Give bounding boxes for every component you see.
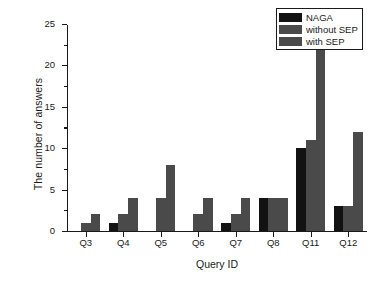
- bar-q6-series-2: [203, 198, 213, 231]
- legend-entry-0: NAGA: [279, 11, 358, 23]
- y-axis-tick-label: 10: [44, 141, 55, 154]
- bar-chart-figure: The number of answers Query ID 051015202…: [0, 0, 379, 284]
- y-axis-tick: 25: [62, 24, 67, 25]
- y-axis-tick: 10: [62, 148, 67, 149]
- y-axis-line: [67, 25, 68, 232]
- plot-area: 0510152025 Q3Q4Q5Q6Q7Q8Q11Q12: [67, 25, 367, 232]
- x-axis-tick-label-q7: Q7: [216, 237, 256, 248]
- y-axis-minor-tick: [64, 210, 67, 211]
- bar-q7-series-2: [241, 198, 251, 231]
- legend-label-0: NAGA: [306, 12, 333, 23]
- legend-swatch-1: [279, 25, 302, 34]
- y-axis-tick: 0: [62, 231, 67, 232]
- bar-q3-series-1: [81, 223, 91, 231]
- legend-swatch-2: [279, 37, 302, 46]
- y-axis-tick-label: 0: [50, 224, 55, 237]
- y-axis-minor-tick: [64, 169, 67, 170]
- bar-q4-series-0: [109, 223, 119, 231]
- y-axis-tick: 5: [62, 190, 67, 191]
- x-axis-tick-label-q12: Q12: [328, 237, 368, 248]
- bar-q12-series-0: [334, 206, 344, 231]
- x-axis-title: Query ID: [67, 258, 367, 270]
- bar-q12-series-2: [353, 132, 363, 231]
- y-axis-tick-label: 5: [50, 183, 55, 196]
- legend-label-2: with SEP: [306, 36, 345, 47]
- bar-q11-series-0: [296, 148, 306, 231]
- legend-entry-1: without SEP: [279, 23, 358, 35]
- y-axis-title: The number of answers: [32, 34, 44, 234]
- y-axis-tick: 15: [62, 107, 67, 108]
- bar-q7-series-1: [231, 214, 241, 231]
- y-axis-tick: 20: [62, 65, 67, 66]
- y-axis-minor-tick: [64, 45, 67, 46]
- x-axis-tick-label-q4: Q4: [103, 237, 143, 248]
- x-axis-tick-label-q5: Q5: [141, 237, 181, 248]
- bar-q12-series-1: [343, 206, 353, 231]
- bar-q5-series-1: [156, 198, 166, 231]
- y-axis-minor-tick: [64, 127, 67, 128]
- x-axis-tick-label-q6: Q6: [178, 237, 218, 248]
- x-axis-tick-label-q11: Q11: [291, 237, 331, 248]
- bar-q8-series-1: [268, 198, 278, 231]
- bar-q11-series-1: [306, 140, 316, 231]
- y-axis-tick-label: 25: [44, 17, 55, 30]
- y-axis-tick-label: 20: [44, 58, 55, 71]
- legend-label-1: without SEP: [306, 24, 358, 35]
- bar-q4-series-1: [118, 214, 128, 231]
- bar-q5-series-2: [166, 165, 176, 231]
- legend-swatch-0: [279, 13, 302, 22]
- bar-q8-series-0: [259, 198, 269, 231]
- bar-q11-series-2: [316, 49, 326, 231]
- bar-q6-series-1: [193, 214, 203, 231]
- x-axis-tick-label-q3: Q3: [66, 237, 106, 248]
- y-axis-minor-tick: [64, 86, 67, 87]
- chart-legend: NAGAwithout SEPwith SEP: [276, 8, 363, 50]
- y-axis-tick-label: 15: [44, 100, 55, 113]
- bar-q4-series-2: [128, 198, 138, 231]
- bar-q8-series-2: [278, 198, 288, 231]
- x-axis-tick-label-q8: Q8: [253, 237, 293, 248]
- bar-q3-series-2: [91, 214, 101, 231]
- legend-entry-2: with SEP: [279, 35, 358, 47]
- bar-q7-series-0: [221, 223, 231, 231]
